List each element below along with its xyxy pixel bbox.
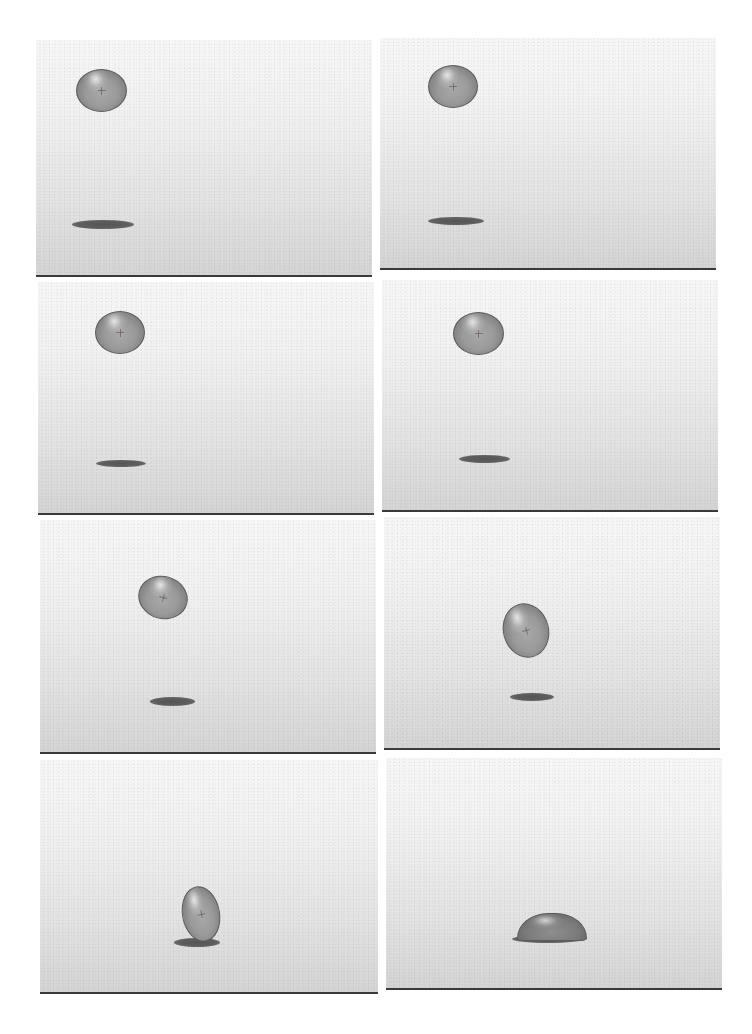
- droplet-shadow: [510, 693, 554, 701]
- droplet: [428, 65, 478, 108]
- droplet-impact-frame-grid: [0, 0, 752, 1034]
- droplet-shadow: [428, 217, 484, 225]
- simulation-frame-7: [40, 760, 378, 994]
- ground-surface-line: [386, 988, 722, 990]
- droplet: [76, 69, 127, 112]
- crosshair-icon: [158, 593, 168, 603]
- simulation-frame-5: [40, 520, 376, 754]
- droplet-shadow: [459, 455, 510, 463]
- simulation-frame-4: [382, 280, 718, 512]
- simulation-frame-8: [386, 758, 722, 990]
- droplet: [453, 312, 504, 355]
- droplet-shadow: [72, 220, 134, 229]
- crosshair-icon: [475, 330, 483, 338]
- simulation-frame-1: [36, 40, 372, 277]
- ground-surface-line: [40, 752, 376, 754]
- ground-surface-line: [40, 992, 378, 994]
- droplet: [517, 913, 587, 941]
- simulation-frame-2: [380, 38, 716, 270]
- simulation-frame-6: [384, 517, 720, 750]
- crosshair-icon: [98, 87, 106, 95]
- ground-surface-line: [384, 748, 720, 750]
- ground-surface-line: [36, 275, 372, 277]
- crosshair-icon: [196, 909, 205, 918]
- droplet: [95, 311, 145, 354]
- droplet-shadow: [150, 697, 195, 706]
- simulation-frame-3: [38, 282, 374, 515]
- droplet-shadow: [96, 460, 146, 467]
- ground-surface-line: [380, 268, 716, 270]
- droplet: [177, 883, 224, 945]
- droplet: [133, 570, 192, 624]
- ground-surface-line: [38, 513, 374, 515]
- crosshair-icon: [449, 83, 457, 91]
- droplet: [497, 598, 556, 663]
- crosshair-icon: [521, 626, 531, 636]
- ground-surface-line: [382, 510, 718, 512]
- crosshair-icon: [116, 329, 124, 337]
